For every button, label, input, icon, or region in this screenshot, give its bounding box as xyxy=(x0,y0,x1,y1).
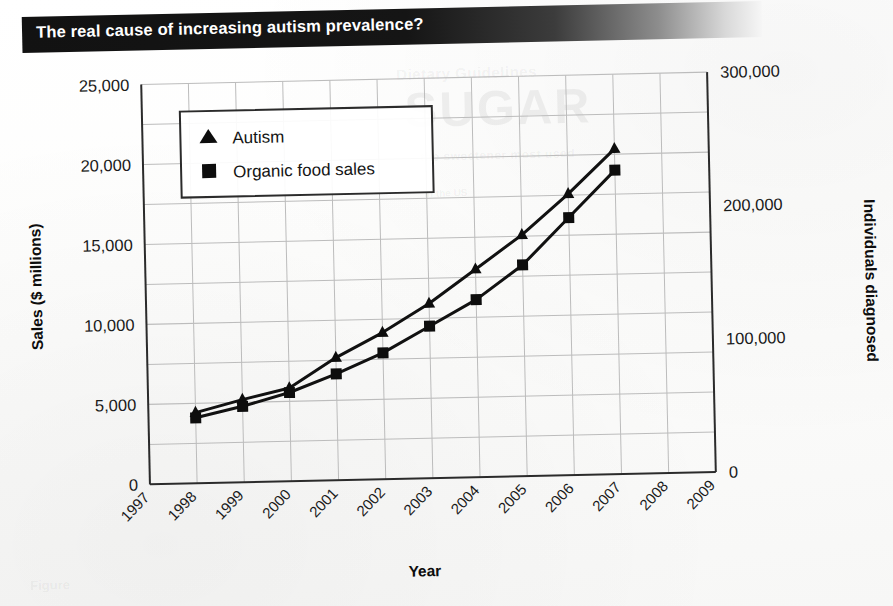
y2-tick-label: 0 xyxy=(729,463,739,481)
y-axis-title: Sales ($ millions) xyxy=(26,223,46,350)
x-tick-label: 1997 xyxy=(117,489,152,525)
marker-square xyxy=(377,347,388,358)
y-tick-label: 20,000 xyxy=(80,156,131,175)
x-tick-label: 1998 xyxy=(164,488,199,524)
x-tick-label: 2006 xyxy=(541,479,576,515)
marker-triangle xyxy=(608,142,620,153)
x-tick-label: 2003 xyxy=(400,483,435,519)
marker-square xyxy=(471,294,482,305)
marker-square xyxy=(517,259,528,270)
y2-axis-title: Individuals diagnosed xyxy=(861,199,882,362)
x-tick-label: 2004 xyxy=(447,481,482,517)
y2-tick-label: 100,000 xyxy=(726,328,786,347)
marker-square xyxy=(609,165,620,176)
marker-square xyxy=(563,212,574,223)
x-tick-label: 2002 xyxy=(353,484,388,520)
x-tick-label: 2001 xyxy=(306,485,341,521)
y-tick-label: 15,000 xyxy=(82,236,133,255)
y-tick-label: 25,000 xyxy=(79,76,130,95)
x-tick-label: 2008 xyxy=(636,477,671,513)
marker-square xyxy=(190,412,201,423)
legend-label: Organic food sales xyxy=(233,159,375,181)
y2-tick-label: 200,000 xyxy=(723,195,783,214)
marker-square xyxy=(237,401,248,412)
marker-square xyxy=(331,368,342,379)
legend-marker-square xyxy=(202,164,216,178)
marker-square xyxy=(284,387,295,398)
y2-tick-label: 300,000 xyxy=(720,62,780,81)
legend-box xyxy=(180,106,434,197)
series-line-organic-food-sales xyxy=(191,170,621,418)
x-tick-label: 2009 xyxy=(683,476,718,512)
y-tick-label: 5,000 xyxy=(95,396,137,415)
chart-plot-area: 05,00010,00015,00020,00025,000 0100,0002… xyxy=(0,0,893,606)
y-axis-tick-labels: 05,00010,00015,00020,00025,000 xyxy=(79,76,139,495)
marker-square xyxy=(424,321,435,332)
chart-svg: 05,00010,00015,00020,00025,000 0100,0002… xyxy=(0,0,893,606)
chart-legend: AutismOrganic food sales xyxy=(180,106,434,197)
x-axis-title: Year xyxy=(408,562,441,580)
y2-axis-tick-labels: 0100,000200,000300,000 xyxy=(720,62,789,481)
y-tick-label: 10,000 xyxy=(84,316,135,335)
figure: The real cause of increasing autism prev… xyxy=(0,0,893,606)
x-tick-label: 2007 xyxy=(589,478,624,514)
x-tick-label: 1999 xyxy=(211,487,246,523)
x-tick-label: 2005 xyxy=(494,480,529,516)
legend-label: Autism xyxy=(232,127,284,147)
x-tick-label: 2000 xyxy=(259,486,294,522)
